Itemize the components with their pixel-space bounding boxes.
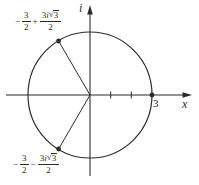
plus-sign: + xyxy=(31,17,40,26)
fraction-three-halves: 3 2 xyxy=(22,11,31,32)
complex-plane-figure: i x 3 − 3 2 + 3i√3 2 − 3 2 − 3i√3 2 xyxy=(0,0,199,185)
imaginary-axis-label: i xyxy=(79,2,82,14)
square-root: √3 xyxy=(49,10,59,20)
fraction-imaginary-part: 3i√3 2 xyxy=(38,153,59,175)
lower-root-label: − 3 2 − 3i√3 2 xyxy=(11,153,59,175)
fraction-imaginary-part: 3i√3 2 xyxy=(40,10,61,32)
point-3-label: 3 xyxy=(153,98,159,109)
square-root: √3 xyxy=(47,153,57,163)
x-axis-label: x xyxy=(182,98,187,110)
fraction-three-halves: 3 2 xyxy=(20,154,29,175)
radius-line-lower-root xyxy=(59,95,90,149)
minus-sign: − xyxy=(11,160,20,169)
upper-root-label: − 3 2 + 3i√3 2 xyxy=(13,10,61,32)
point-dot-lower-root xyxy=(56,147,61,152)
radius-line-upper-root xyxy=(59,41,90,95)
minus-sign: − xyxy=(13,17,22,26)
imaginary-axis-arrowhead-icon xyxy=(87,5,93,15)
point-dot-upper-root xyxy=(56,39,61,44)
minus-operator: − xyxy=(29,160,38,169)
